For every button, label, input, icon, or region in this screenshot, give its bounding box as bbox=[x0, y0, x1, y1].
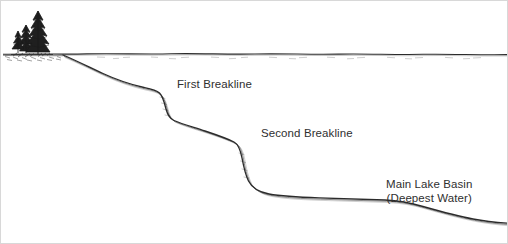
label-main-lake-basin-line1: Main Lake Basin bbox=[386, 178, 473, 190]
conifer-tree-cluster-icon bbox=[11, 11, 53, 57]
tree-tall-right bbox=[26, 11, 50, 55]
diagram-canvas bbox=[1, 1, 508, 244]
label-main-lake-basin: Main Lake Basin (Deepest Water) bbox=[386, 177, 473, 205]
water-surface-line-icon bbox=[3, 54, 507, 59]
lake-profile-diagram: First Breakline Second Breakline Main La… bbox=[0, 0, 508, 244]
label-first-breakline: First Breakline bbox=[177, 78, 252, 92]
label-second-breakline: Second Breakline bbox=[261, 127, 353, 141]
shoreline-ground-texture bbox=[3, 56, 63, 62]
label-main-lake-basin-line2: (Deepest Water) bbox=[386, 191, 473, 205]
